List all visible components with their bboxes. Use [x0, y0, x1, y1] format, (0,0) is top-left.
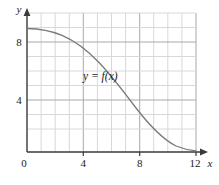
- x-tick-label-4: 4: [81, 157, 87, 169]
- y-axis: [24, 8, 31, 152]
- x-axis-label: x: [207, 157, 213, 169]
- curve-equation-label: y = f(x): [82, 70, 118, 83]
- x-tick-label-12: 12: [190, 157, 201, 169]
- x-axis: [27, 149, 208, 156]
- y-axis-arrow: [24, 8, 31, 16]
- x-tick-label-8: 8: [137, 157, 143, 169]
- grid-minor-vertical: [41, 13, 182, 152]
- plot-canvas: 0 4 8 12 4 8 y x y = f(x): [0, 0, 219, 185]
- x-axis-arrow: [200, 149, 208, 156]
- y-axis-label: y: [16, 3, 22, 15]
- grid-major-vertical: [83, 13, 196, 152]
- x-tick-label-0: 0: [21, 157, 27, 169]
- y-tick-label-8: 8: [16, 36, 22, 48]
- function-graph-figure: 0 4 8 12 4 8 y x y = f(x): [0, 0, 219, 185]
- y-tick-label-4: 4: [16, 94, 22, 106]
